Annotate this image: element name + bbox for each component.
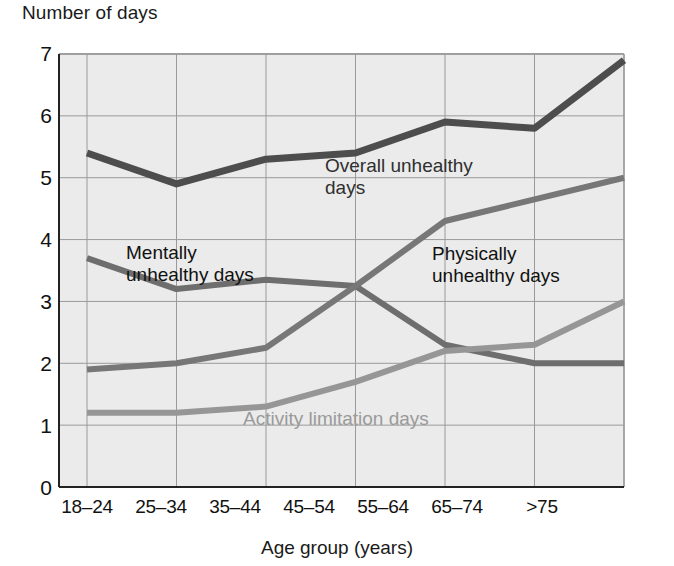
plot-canvas <box>0 0 674 566</box>
x-axis-title: Age group (years) <box>0 537 674 559</box>
annotation-activity-limitation-days: Activity limitation days <box>243 408 429 430</box>
annotation-mentally-unhealthy-days: Mentally unhealthy days <box>126 242 254 286</box>
annotation-overall-unhealthy-days: Overall unhealthy days <box>325 155 473 199</box>
annotation-physically-unhealthy-days: Physically unhealthy days <box>432 243 560 287</box>
chart-figure: Number of days 7 6 5 4 3 2 1 0 18–24 25–… <box>0 0 674 566</box>
